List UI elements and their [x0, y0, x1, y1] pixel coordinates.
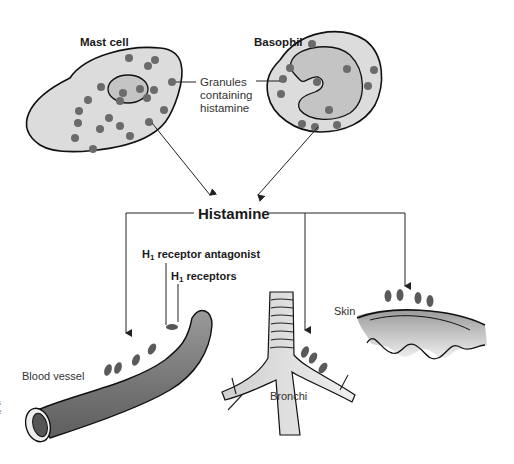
basophil-label: Basophil	[254, 36, 303, 48]
h1-antagonist-label: H1 receptor antagonist	[142, 248, 260, 262]
histamine-label: Histamine	[198, 205, 270, 222]
mast-cell-graphic	[27, 47, 182, 153]
granules-label-line-1: Granules	[200, 76, 252, 89]
skin-label: Skin	[334, 305, 355, 317]
h1-receptors-rest: receptors	[183, 270, 236, 282]
edge-text-fragment: s e	[0, 398, 1, 416]
skin-graphic	[357, 289, 487, 359]
mast-cell-label: Mast cell	[80, 36, 129, 48]
granules-label-line-3: histamine	[200, 102, 252, 115]
histamine-diagram: Mast cell Basophil Granules containing h…	[0, 0, 514, 464]
edge-fragment-line-2: e	[0, 407, 1, 416]
granules-label: Granules containing histamine	[200, 76, 252, 115]
diagram-graphics	[0, 0, 514, 464]
granules-label-line-2: containing	[200, 89, 252, 102]
h1-receptors-prefix: H	[171, 270, 179, 282]
h1-receptors-label: H1 receptors	[171, 270, 237, 284]
edge-fragment-line-1: s	[0, 398, 1, 407]
bronchi-label: Bronchi	[270, 390, 307, 402]
h1-antagonist-prefix: H	[142, 248, 150, 260]
blood-vessel-label: Blood vessel	[22, 370, 84, 382]
h1-antagonist-rest: receptor antagonist	[154, 248, 260, 260]
